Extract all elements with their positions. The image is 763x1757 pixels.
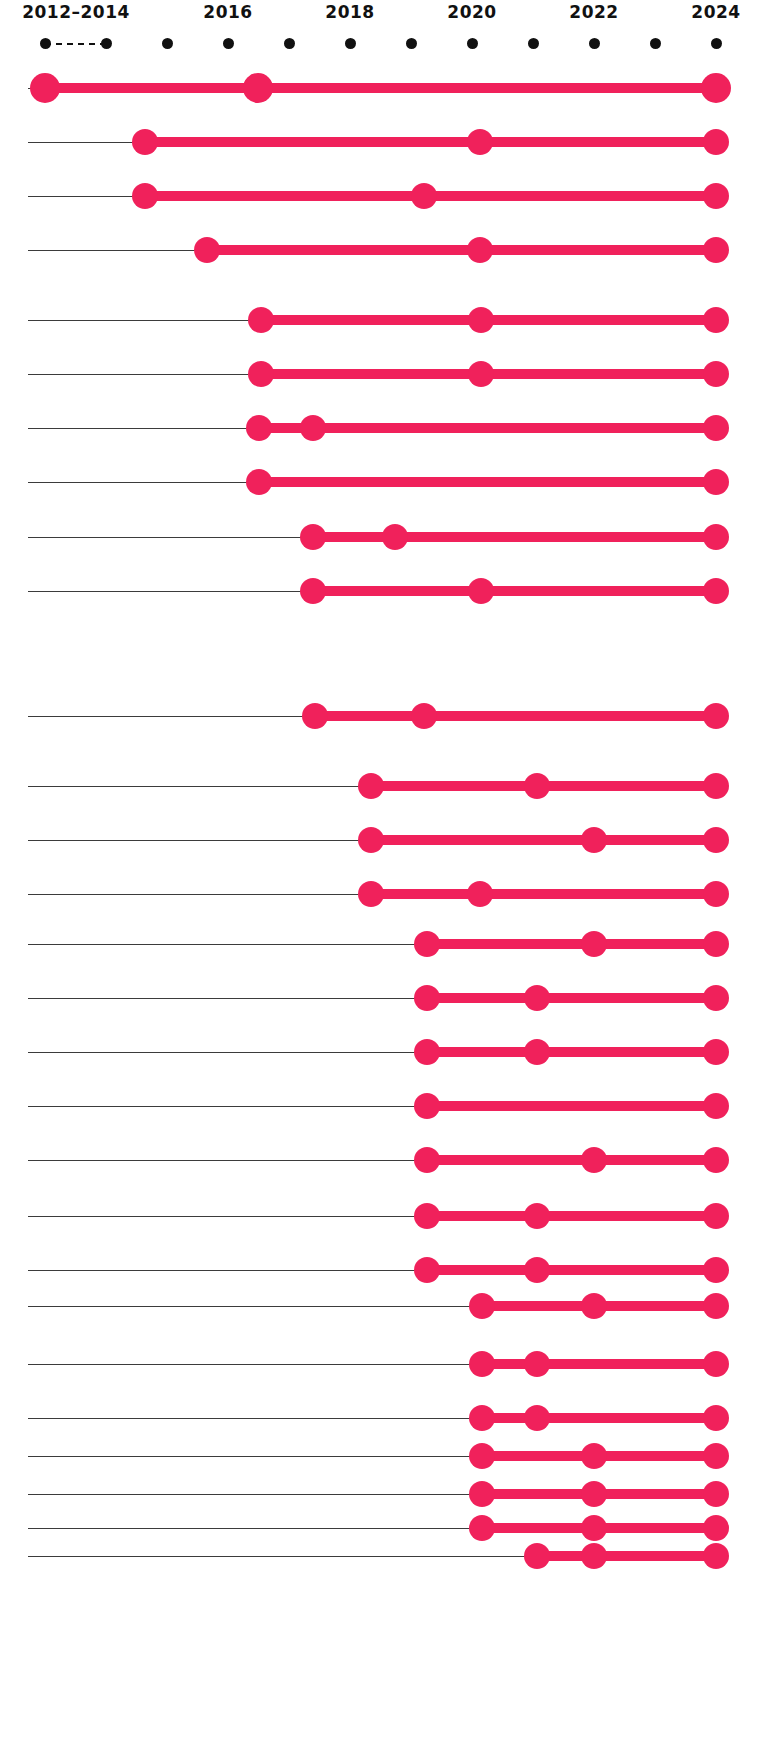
row-event-node[interactable] <box>469 1481 495 1507</box>
row-event-node[interactable] <box>524 1039 550 1065</box>
row-event-node[interactable] <box>467 237 493 263</box>
timeline-row[interactable] <box>0 180 763 214</box>
timeline-row[interactable] <box>0 412 763 446</box>
timeline-row[interactable] <box>0 72 763 106</box>
row-event-node[interactable] <box>382 524 408 550</box>
timeline-row[interactable] <box>0 1254 763 1288</box>
row-event-node[interactable] <box>703 931 729 957</box>
row-event-node[interactable] <box>358 773 384 799</box>
row-event-node[interactable] <box>703 1481 729 1507</box>
row-event-node[interactable] <box>469 1405 495 1431</box>
row-event-node[interactable] <box>581 827 607 853</box>
row-active-span[interactable] <box>207 245 716 255</box>
timeline-row[interactable] <box>0 1290 763 1324</box>
row-event-node[interactable] <box>581 1515 607 1541</box>
row-event-node[interactable] <box>414 1257 440 1283</box>
row-event-node[interactable] <box>524 1543 550 1569</box>
row-active-span[interactable] <box>427 1101 716 1111</box>
row-event-node[interactable] <box>302 703 328 729</box>
row-event-node[interactable] <box>414 1147 440 1173</box>
row-active-span[interactable] <box>427 993 716 1003</box>
row-active-span[interactable] <box>371 889 716 899</box>
row-event-node[interactable] <box>246 415 272 441</box>
row-event-node[interactable] <box>581 1147 607 1173</box>
timeline-row[interactable] <box>0 700 763 734</box>
row-event-node[interactable] <box>703 1093 729 1119</box>
row-event-node[interactable] <box>414 985 440 1011</box>
row-event-node[interactable] <box>469 1443 495 1469</box>
row-event-node[interactable] <box>703 827 729 853</box>
row-event-node[interactable] <box>703 985 729 1011</box>
row-active-span[interactable] <box>259 477 716 487</box>
row-active-span[interactable] <box>482 1359 716 1369</box>
row-event-node[interactable] <box>524 1405 550 1431</box>
row-event-node[interactable] <box>300 415 326 441</box>
row-event-node[interactable] <box>703 1405 729 1431</box>
row-event-node[interactable] <box>703 237 729 263</box>
row-event-node[interactable] <box>703 469 729 495</box>
row-active-span[interactable] <box>427 939 716 949</box>
row-event-node[interactable] <box>467 129 493 155</box>
row-event-node[interactable] <box>703 1203 729 1229</box>
timeline-row[interactable] <box>0 824 763 858</box>
row-active-span[interactable] <box>313 532 716 542</box>
row-active-span[interactable] <box>427 1265 716 1275</box>
row-event-node[interactable] <box>703 415 729 441</box>
row-event-node[interactable] <box>414 1039 440 1065</box>
timeline-row[interactable] <box>0 575 763 609</box>
row-event-node[interactable] <box>703 1443 729 1469</box>
row-event-node[interactable] <box>524 985 550 1011</box>
row-active-span[interactable] <box>259 423 716 433</box>
row-event-node[interactable] <box>703 307 729 333</box>
timeline-row[interactable] <box>0 304 763 338</box>
row-event-node[interactable] <box>467 881 493 907</box>
timeline-row[interactable] <box>0 928 763 962</box>
timeline-row[interactable] <box>0 358 763 392</box>
row-event-node[interactable] <box>703 773 729 799</box>
timeline-row[interactable] <box>0 1200 763 1234</box>
row-event-node[interactable] <box>703 1257 729 1283</box>
row-event-node[interactable] <box>703 1293 729 1319</box>
row-event-node[interactable] <box>703 183 729 209</box>
row-event-node[interactable] <box>246 469 272 495</box>
row-event-node[interactable] <box>524 1257 550 1283</box>
row-event-node[interactable] <box>414 1093 440 1119</box>
row-event-node[interactable] <box>703 1147 729 1173</box>
row-active-span[interactable] <box>45 83 716 93</box>
row-active-span[interactable] <box>427 1155 716 1165</box>
timeline-row[interactable] <box>0 1402 763 1436</box>
row-event-node[interactable] <box>468 578 494 604</box>
timeline-row[interactable] <box>0 982 763 1016</box>
timeline-row[interactable] <box>0 521 763 555</box>
row-event-node[interactable] <box>468 361 494 387</box>
row-event-node[interactable] <box>132 129 158 155</box>
row-event-node[interactable] <box>703 1543 729 1569</box>
row-event-node[interactable] <box>703 578 729 604</box>
row-event-node[interactable] <box>468 307 494 333</box>
timeline-row[interactable] <box>0 1540 763 1574</box>
row-event-node[interactable] <box>132 183 158 209</box>
timeline-row[interactable] <box>0 1036 763 1070</box>
timeline-row[interactable] <box>0 126 763 160</box>
row-event-node[interactable] <box>194 237 220 263</box>
row-event-node[interactable] <box>248 361 274 387</box>
timeline-row[interactable] <box>0 1440 763 1474</box>
timeline-row[interactable] <box>0 1090 763 1124</box>
row-event-node[interactable] <box>30 73 60 103</box>
row-event-node[interactable] <box>300 578 326 604</box>
row-event-node[interactable] <box>581 1443 607 1469</box>
row-active-span[interactable] <box>313 586 716 596</box>
row-active-span[interactable] <box>427 1211 716 1221</box>
row-event-node[interactable] <box>358 827 384 853</box>
row-event-node[interactable] <box>411 183 437 209</box>
row-event-node[interactable] <box>703 524 729 550</box>
row-event-node[interactable] <box>703 129 729 155</box>
row-active-span[interactable] <box>482 1413 716 1423</box>
row-event-node[interactable] <box>358 881 384 907</box>
row-event-node[interactable] <box>581 1481 607 1507</box>
row-event-node[interactable] <box>469 1293 495 1319</box>
row-event-node[interactable] <box>524 1351 550 1377</box>
row-event-node[interactable] <box>703 881 729 907</box>
row-active-span[interactable] <box>371 835 716 845</box>
row-event-node[interactable] <box>703 703 729 729</box>
